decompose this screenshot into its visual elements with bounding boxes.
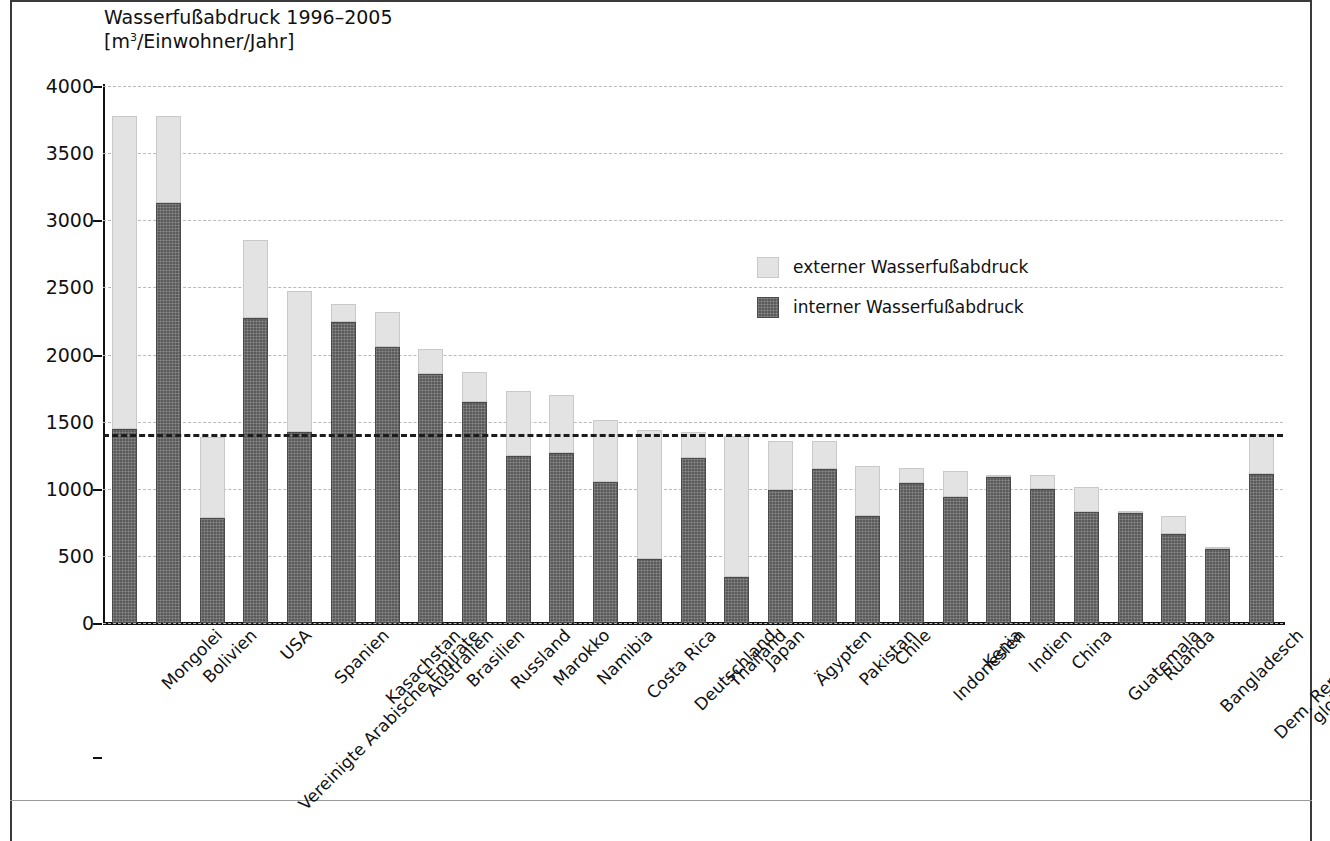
y-axis-tick-label: 1500 [46, 411, 94, 433]
bar-segment-internal [724, 577, 749, 623]
subtitle-prefix: [m [104, 30, 130, 52]
bar-segment-internal [331, 322, 356, 623]
bar-dem-rep-kongo[interactable] [1205, 86, 1230, 623]
y-axis-tick [93, 355, 102, 357]
x-axis-tick-labels: MongoleiBolivienVereinigte Arabische Emi… [103, 625, 1303, 825]
bar-segment-external [506, 391, 531, 456]
subtitle-exponent: 3 [130, 31, 137, 44]
bar-segment-internal [112, 429, 137, 623]
bar-vereinigte-arabische-emirate[interactable] [200, 86, 225, 623]
bar-thailand[interactable] [681, 86, 706, 623]
y-axis-tick [93, 489, 102, 491]
subtitle-suffix: /Einwohner/Jahr] [137, 30, 294, 52]
bar-segment-external [331, 304, 356, 322]
bar-indien[interactable] [986, 86, 1011, 623]
reference-line [103, 434, 1283, 437]
bar-mongolei[interactable] [112, 86, 137, 623]
bar-segment-external [855, 466, 880, 516]
bar-segment-external [768, 441, 793, 490]
page-border-top [10, 0, 1312, 2]
bar-segment-external [1074, 487, 1099, 513]
bar-segment-internal [899, 483, 924, 623]
bar-segment-internal [1030, 489, 1055, 623]
bar-segment-internal [506, 456, 531, 623]
bar-guatemala[interactable] [1074, 86, 1099, 623]
bar-segment-internal [375, 347, 400, 623]
y-axis-tick [93, 623, 102, 625]
bar-segment-external [724, 436, 749, 578]
bar-segment-external [287, 291, 312, 432]
bar-segment-external [375, 312, 400, 348]
x-axis-tick-label: Indien [1024, 625, 1075, 676]
bar-deutschland[interactable] [637, 86, 662, 623]
bar-brasilien[interactable] [418, 86, 443, 623]
bar-russland[interactable] [462, 86, 487, 623]
gridline [103, 623, 1283, 624]
bar-segment-external [943, 471, 968, 497]
bar-chile[interactable] [855, 86, 880, 623]
y-axis-tick-label: 500 [58, 545, 94, 567]
bar-segment-internal [986, 477, 1011, 623]
bar-segment-internal [1161, 534, 1186, 623]
chart-title: Wasserfußabdruck 1996–2005 [104, 5, 393, 29]
bar-segment-internal [855, 516, 880, 623]
bar-segment-external [156, 116, 181, 203]
bar-segment-internal [768, 490, 793, 623]
bar-segment-external [462, 372, 487, 402]
bar-segment-internal [1205, 549, 1230, 624]
chart-title-block: Wasserfußabdruck 1996–2005 [m3/Einwohner… [104, 5, 393, 54]
bar-kasachstan[interactable] [331, 86, 356, 623]
bar-pakistan[interactable] [812, 86, 837, 623]
bar-segment-internal [1074, 512, 1099, 623]
bar-segment-internal [243, 318, 268, 623]
legend-label-internal: interner Wasserfußabdruck [793, 297, 1024, 317]
bar-kenia[interactable] [943, 86, 968, 623]
plot-area [103, 86, 1283, 623]
bar-segment-internal [418, 374, 443, 623]
y-axis-tick [93, 757, 102, 759]
y-axis-tick-labels: 05001000150020002500300035004000 [0, 86, 94, 623]
x-axis-tick-label: China [1067, 625, 1115, 673]
y-axis-tick-label: 3000 [46, 209, 94, 231]
bar--gypten[interactable] [768, 86, 793, 623]
bar-segment-external [593, 420, 618, 482]
bar-segment-external [549, 395, 574, 453]
y-axis-tick [93, 86, 102, 88]
bar-segment-internal [1249, 474, 1274, 623]
bar-china[interactable] [1030, 86, 1055, 623]
bar-segment-external [1030, 475, 1055, 489]
bar-segment-external [418, 349, 443, 374]
y-axis-tick-label: 2000 [46, 344, 94, 366]
bar-segment-internal [200, 518, 225, 623]
bar-segment-internal [681, 458, 706, 623]
legend-label-external: externer Wasserfußabdruck [793, 257, 1028, 277]
bar-costa-rica[interactable] [593, 86, 618, 623]
bar-segment-internal [1118, 513, 1143, 623]
bar-segment-external [200, 437, 225, 518]
bar-segment-internal [549, 453, 574, 623]
chart-legend: externer Wasserfußabdruck interner Wasse… [757, 252, 1028, 332]
bar-segment-internal [156, 203, 181, 623]
legend-item-external: externer Wasserfußabdruck [757, 252, 1028, 282]
y-axis-tick-label: 3500 [46, 142, 94, 164]
bar-segment-external [1161, 516, 1186, 535]
chart-page: Wasserfußabdruck 1996–2005 [m3/Einwohner… [0, 0, 1330, 841]
legend-swatch-external-icon [757, 257, 779, 278]
bar-usa[interactable] [243, 86, 268, 623]
x-axis-tick-label: Spanien [330, 625, 393, 688]
bar-segment-external [899, 468, 924, 483]
y-axis-tick-label: 1000 [46, 478, 94, 500]
bar-ruanda[interactable] [1118, 86, 1143, 623]
chart-subtitle: [m3/Einwohner/Jahr] [104, 29, 393, 53]
bar-indonesien[interactable] [899, 86, 924, 623]
bar-globales-mittel[interactable] [1249, 86, 1274, 623]
bar-segment-external [243, 240, 268, 318]
bar-bangladesch[interactable] [1161, 86, 1186, 623]
bar-spanien[interactable] [287, 86, 312, 623]
bar-marokko[interactable] [506, 86, 531, 623]
bar-japan[interactable] [724, 86, 749, 623]
bar-australien[interactable] [375, 86, 400, 623]
legend-item-internal: interner Wasserfußabdruck [757, 292, 1028, 322]
bar-namibia[interactable] [549, 86, 574, 623]
bar-bolivien[interactable] [156, 86, 181, 623]
